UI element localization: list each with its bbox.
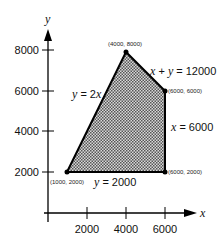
- x-tick-label: 2000: [75, 223, 99, 235]
- chart: y x 8000 6000 4000 2000 2000 4000 6000 (…: [0, 0, 221, 246]
- x-axis-arrow-icon: [184, 209, 197, 217]
- x-axis: [44, 207, 197, 219]
- vertex-label: (6000, 2000): [168, 169, 202, 175]
- constraint-label-x-plus-y: x + y = 12000: [149, 64, 216, 78]
- vertex-point: [163, 89, 168, 94]
- vertex-label: (6000, 6000): [168, 88, 202, 94]
- constraint-label-x-6000: x = 6000: [170, 120, 213, 134]
- y-tick-label: 4000: [15, 125, 39, 137]
- vertex-point: [65, 170, 70, 175]
- x-axis-label: x: [199, 206, 206, 220]
- vertex-label: (4000, 8000): [108, 41, 142, 47]
- y-axis: [42, 29, 54, 222]
- y-tick-label: 6000: [15, 85, 39, 97]
- y-axis-arrow-icon: [44, 29, 52, 41]
- y-axis-label: y: [44, 12, 51, 26]
- x-tick-label: 6000: [153, 223, 177, 235]
- constraint-label-y-2x: y = 2x: [71, 87, 102, 101]
- vertex-point: [124, 50, 129, 55]
- y-tick-label: 2000: [15, 166, 39, 178]
- y-tick-label: 8000: [15, 44, 39, 56]
- x-tick-label: 4000: [114, 223, 138, 235]
- vertex-label: (1000, 2000): [50, 179, 84, 185]
- vertex-point: [163, 170, 168, 175]
- constraint-label-y-2000: y = 2000: [93, 175, 136, 189]
